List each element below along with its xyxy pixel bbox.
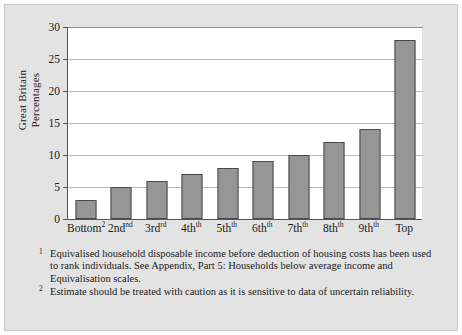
bars-layer [68, 27, 423, 219]
x-axis-label: 2ndnd [103, 222, 139, 234]
y-axis-tick-label: 0 [54, 213, 60, 225]
y-axis-title-line-1: Great Britain [16, 40, 29, 160]
bar-slot [352, 27, 388, 219]
ordinal-suffix: th [373, 220, 379, 229]
footnote-text: Estimate should be treated with caution … [50, 286, 414, 297]
x-axis-labels: Bottom22ndnd3rdrd4thth5thth6thth7thth8th… [67, 222, 422, 242]
bar[interactable] [395, 40, 416, 219]
ordinal-suffix: th [338, 220, 344, 229]
y-axis-tick-label: 20 [49, 85, 61, 97]
plot-area: 051015202530 [67, 27, 422, 220]
y-axis-tick-mark [63, 219, 68, 220]
ordinal-suffix: th [231, 220, 237, 229]
bar[interactable] [146, 181, 167, 219]
ordinal-suffix: th [267, 220, 273, 229]
bar[interactable] [288, 155, 309, 219]
bar-slot [104, 27, 140, 219]
bar[interactable] [217, 168, 238, 219]
y-axis-tick-label: 30 [49, 21, 61, 33]
x-axis-label: 8thth [316, 222, 352, 234]
ordinal-suffix: rd [160, 220, 166, 229]
bar-slot [210, 27, 246, 219]
y-axis-title-line-2: Percentages [29, 40, 42, 160]
x-axis-label: 6thth [245, 222, 281, 234]
bar-slot [139, 27, 175, 219]
bar-slot [317, 27, 353, 219]
bar[interactable] [324, 142, 345, 219]
bar[interactable] [253, 161, 274, 219]
y-axis-tick-label: 10 [49, 149, 61, 161]
bar-slot [246, 27, 282, 219]
y-axis-tick-label: 15 [49, 117, 61, 129]
bar[interactable] [359, 129, 380, 219]
bar-slot [175, 27, 211, 219]
x-axis-label: Bottom2 [67, 222, 103, 234]
y-axis-tick-label: 5 [54, 181, 60, 193]
bar-slot [281, 27, 317, 219]
y-axis-tick-label: 25 [49, 53, 61, 65]
bar[interactable] [182, 174, 203, 219]
x-axis-label: Top [387, 222, 423, 234]
bar-slot [68, 27, 104, 219]
footnote: 2Estimate should be treated with caution… [39, 286, 439, 298]
ordinal-suffix: th [196, 220, 202, 229]
x-axis-label: 9thth [351, 222, 387, 234]
figure-frame: Great Britain Percentages 051015202530 B… [4, 4, 458, 331]
bar-slot [388, 27, 424, 219]
x-axis-label: 5thth [209, 222, 245, 234]
ordinal-suffix: th [302, 220, 308, 229]
y-axis-title: Great Britain Percentages [16, 40, 50, 160]
x-axis-label: 3rdrd [138, 222, 174, 234]
bar[interactable] [75, 200, 96, 219]
footnote: 1Equivalised household disposable income… [39, 248, 439, 285]
x-axis-label: 4thth [174, 222, 210, 234]
bar[interactable] [111, 187, 132, 219]
footnotes: 1Equivalised household disposable income… [39, 248, 439, 299]
x-axis-label: 7thth [280, 222, 316, 234]
footnote-marker: 2 [39, 283, 43, 295]
ordinal-suffix: nd [125, 220, 133, 229]
footnote-text: Equivalised household disposable income … [50, 248, 431, 284]
footnote-marker: 1 [39, 246, 43, 258]
bar-chart: Great Britain Percentages 051015202530 B… [5, 5, 459, 243]
